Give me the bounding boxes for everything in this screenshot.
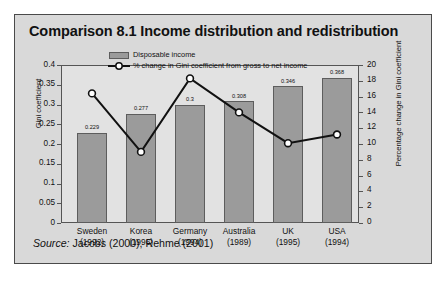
category-label-usa: USA (1994) bbox=[307, 226, 367, 248]
line-series-gini-change bbox=[61, 65, 359, 223]
y-tick-right-16: 16 bbox=[367, 91, 393, 100]
y-tick-right-6: 6 bbox=[367, 170, 393, 179]
y-tick-left-0.25: 0.25 bbox=[29, 119, 55, 128]
category-name-australia: Australia bbox=[223, 226, 256, 236]
y-tick-left-0.3: 0.3 bbox=[29, 99, 55, 108]
y-tick-left-0.4: 0.4 bbox=[29, 60, 55, 69]
category-year-australia: (1989) bbox=[227, 237, 251, 247]
source-note: Source: Jacobs (2000), Rehme (2001) bbox=[33, 237, 213, 249]
y-tick-right-14: 14 bbox=[367, 107, 393, 116]
legend-bar-swatch bbox=[109, 52, 129, 59]
marker-uk bbox=[285, 140, 292, 147]
category-year-uk: (1995) bbox=[276, 237, 300, 247]
category-name-uk: UK bbox=[282, 226, 294, 236]
legend-bar-label: Disposable income bbox=[133, 50, 195, 59]
category-year-usa: (1994) bbox=[325, 237, 349, 247]
y-tick-right-18: 18 bbox=[367, 75, 393, 84]
y-tick-right-10: 10 bbox=[367, 138, 393, 147]
y-tick-left-0.05: 0.05 bbox=[29, 198, 55, 207]
marker-australia bbox=[236, 109, 243, 116]
y-axis-label-right: Percentage change in Gini coefficient bbox=[394, 34, 403, 174]
comparison-panel: Comparison 8.1 Income distribution and r… bbox=[14, 14, 432, 264]
marker-korea bbox=[138, 149, 145, 156]
y-tick-right-20: 20 bbox=[367, 60, 393, 69]
y-tick-right-12: 12 bbox=[367, 122, 393, 131]
source-prefix: Source: bbox=[33, 237, 70, 249]
legend-line-glyph bbox=[108, 61, 130, 71]
marker-usa bbox=[334, 131, 341, 138]
y-tick-left-0.15: 0.15 bbox=[29, 158, 55, 167]
y-tick-left-0.2: 0.2 bbox=[29, 139, 55, 148]
category-name-usa: USA bbox=[328, 226, 345, 236]
y-tick-right-0: 0 bbox=[367, 217, 393, 226]
marker-germany bbox=[187, 75, 194, 82]
chart-plot-area: Gini coefficient Percentage change in Gi… bbox=[15, 15, 433, 265]
y-tick-left-0.1: 0.1 bbox=[29, 178, 55, 187]
source-text: Jacobs (2000), Rehme (2001) bbox=[70, 237, 214, 249]
y-tick-right-4: 4 bbox=[367, 185, 393, 194]
category-name-korea: Korea bbox=[130, 226, 152, 236]
y-tick-right-8: 8 bbox=[367, 154, 393, 163]
marker-sweden bbox=[89, 90, 96, 97]
category-name-germany: Germany bbox=[173, 226, 207, 236]
legend-line-label: % change in Gini coefficient from gross … bbox=[133, 61, 307, 70]
y-tick-left-0: 0 bbox=[29, 218, 55, 227]
y-tick-right-2: 2 bbox=[367, 201, 393, 210]
category-name-sweden: Sweden bbox=[77, 226, 107, 236]
y-tick-left-0.35: 0.35 bbox=[29, 79, 55, 88]
